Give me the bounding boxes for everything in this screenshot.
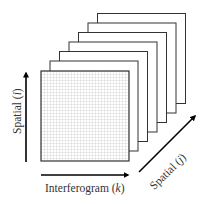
- x-axis-label: Interferogram (k): [45, 183, 125, 195]
- y-axis-label: Spatial (i): [12, 88, 24, 134]
- front-grid-frame: [41, 71, 129, 161]
